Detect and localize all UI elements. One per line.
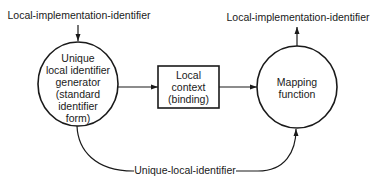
generator-line-6: form) <box>66 112 91 124</box>
bottom-curve-left <box>77 126 134 171</box>
generator-line-3: generator <box>56 76 101 88</box>
generator-node: Unique local identifier generator (stand… <box>38 42 118 126</box>
context-line-3: (binding) <box>168 93 209 105</box>
input-identifier-label: Local-implementation-identifier <box>8 9 151 21</box>
generator-line-4: (standard <box>56 88 101 100</box>
output-identifier-label: Local-implementation-identifier <box>227 11 370 23</box>
mapping-node: Mapping function <box>257 46 337 128</box>
bottom-curve-right <box>236 129 296 171</box>
generator-line-1: Unique <box>61 52 94 64</box>
context-node: Local context (binding) <box>158 66 219 108</box>
identifier-mapping-diagram: Local-implementation-identifier Unique l… <box>0 0 381 186</box>
mapping-line-2: function <box>279 88 316 100</box>
generator-line-5: identifier <box>58 100 98 112</box>
mapping-line-1: Mapping <box>277 76 317 88</box>
context-line-1: Local <box>176 69 201 81</box>
context-line-2: context <box>172 81 206 93</box>
unique-local-identifier-label: Unique-local-identifier <box>134 164 236 176</box>
generator-line-2: local identifier <box>46 64 111 76</box>
